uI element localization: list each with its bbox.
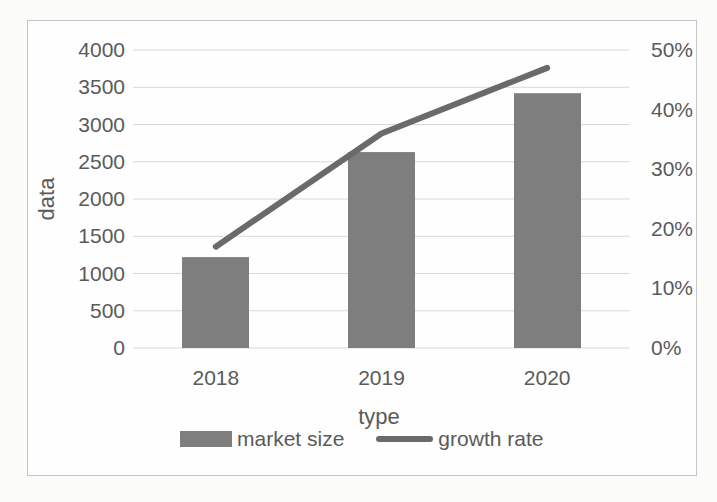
y-left-tick-3500: 3500 <box>78 75 125 98</box>
legend-label-growth-rate: growth rate <box>438 428 543 449</box>
y-left-tick-2000: 2000 <box>78 187 125 210</box>
y-axis-title: data <box>36 178 58 221</box>
x-tick-2020: 2020 <box>524 366 571 389</box>
chart-legend: market size growth rate <box>180 428 543 449</box>
y-left-tick-500: 500 <box>90 299 125 322</box>
line-swatch-icon <box>376 436 433 442</box>
y-left-tick-0: 0 <box>113 336 125 359</box>
legend-item-growth-rate: growth rate <box>376 428 543 449</box>
y-left-tick-3000: 3000 <box>78 113 125 136</box>
y-left-tick-2500: 2500 <box>78 150 125 173</box>
x-axis-title: type <box>358 406 400 428</box>
bar-2020 <box>514 93 581 348</box>
y-left-tick-1000: 1000 <box>78 262 125 285</box>
scanned-chart-page: 4000350030002500200015001000500050%40%30… <box>0 0 717 502</box>
bar-swatch-icon <box>180 431 232 447</box>
y-right-tick-30%: 30% <box>651 157 693 180</box>
legend-item-market-size: market size <box>180 428 344 449</box>
x-tick-2018: 2018 <box>192 366 239 389</box>
y-left-tick-1500: 1500 <box>78 224 125 247</box>
y-left-tick-4000: 4000 <box>78 38 125 61</box>
y-right-tick-50%: 50% <box>651 38 693 61</box>
bar-2019 <box>348 152 415 348</box>
y-right-tick-0%: 0% <box>651 336 681 359</box>
y-right-tick-20%: 20% <box>651 217 693 240</box>
y-right-tick-40%: 40% <box>651 98 693 121</box>
legend-label-market-size: market size <box>237 428 344 449</box>
y-right-tick-10%: 10% <box>651 276 693 299</box>
bar-2018 <box>182 257 249 348</box>
x-tick-2019: 2019 <box>358 366 405 389</box>
